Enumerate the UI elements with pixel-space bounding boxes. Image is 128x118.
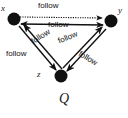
figure-caption: Q xyxy=(0,92,128,106)
node-label-z: z xyxy=(37,70,41,79)
edge-label-x-z: follow xyxy=(6,50,26,58)
edge-label-x-y-dotted: follow xyxy=(38,2,58,10)
figure-canvas: x y z follow follow follow follow follow… xyxy=(0,0,128,118)
node-y[interactable] xyxy=(105,15,118,28)
node-z[interactable] xyxy=(55,70,68,83)
node-label-x: x xyxy=(1,4,5,13)
edge-label-y-x-solid: follow xyxy=(48,21,68,29)
edge-x-y-dotted xyxy=(20,17,102,18)
node-label-y: y xyxy=(118,6,122,15)
node-x[interactable] xyxy=(8,13,21,26)
